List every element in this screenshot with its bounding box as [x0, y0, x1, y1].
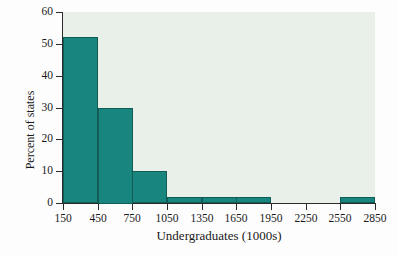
histogram-figure: 0102030405060 15045075010501350165019502…	[0, 0, 398, 256]
x-axis-title: Undergraduates (1000s)	[63, 228, 375, 243]
x-tick-mark	[98, 204, 99, 210]
histogram-bar	[132, 171, 167, 203]
histogram-bar	[167, 197, 202, 203]
histogram-bar	[63, 37, 98, 203]
y-tick-label-container: 0	[0, 197, 53, 209]
y-tick-mark	[56, 108, 62, 109]
x-tick-mark	[63, 204, 64, 210]
x-tick-mark	[132, 204, 133, 210]
y-tick-mark	[56, 203, 62, 204]
y-tick-mark	[56, 44, 62, 45]
histogram-bar	[236, 197, 271, 203]
histogram-bar	[98, 108, 133, 204]
y-tick-mark	[56, 171, 62, 172]
x-tick-mark	[236, 204, 237, 210]
y-tick-mark	[56, 139, 62, 140]
x-tick-mark	[167, 204, 168, 210]
x-tick-label-container: 2850	[352, 211, 398, 225]
y-axis-title: Percent of states	[24, 65, 36, 195]
histogram-bar	[202, 197, 237, 203]
x-tick-mark	[306, 204, 307, 210]
y-tick-label: 60	[3, 6, 53, 18]
histogram-bar	[340, 197, 375, 203]
x-tick-mark	[271, 204, 272, 210]
y-tick-mark	[56, 76, 62, 77]
y-tick-mark	[56, 12, 62, 13]
y-tick-label: 0	[3, 197, 53, 209]
y-tick-label-container: 60	[0, 6, 53, 18]
y-tick-label: 50	[3, 38, 53, 50]
x-tick-label: 2850	[352, 211, 398, 225]
y-axis-title-container: Percent of states	[12, 40, 28, 170]
x-tick-mark	[202, 204, 203, 210]
x-tick-mark	[375, 204, 376, 210]
x-tick-mark	[340, 204, 341, 210]
